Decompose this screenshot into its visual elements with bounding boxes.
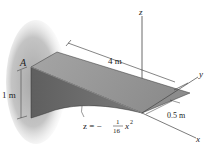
label-length: 4 m bbox=[108, 56, 122, 66]
curve-leader bbox=[81, 106, 84, 117]
label-width: 0.5 m bbox=[167, 111, 186, 120]
cantilever-diagram: A 1 m 4 m 0.5 m z y x z = − 1 16 x 2 bbox=[0, 0, 215, 151]
y-axis-ext bbox=[174, 83, 188, 90]
curve-equation-numerator: 1 bbox=[116, 118, 120, 126]
label-axis-z: z bbox=[138, 7, 143, 17]
dimension-tick bbox=[66, 40, 71, 46]
label-height: 1 m bbox=[2, 90, 16, 100]
curve-equation-exponent: 2 bbox=[130, 119, 133, 125]
curve-equation-prefix: z = − bbox=[83, 121, 102, 131]
label-axis-x: x bbox=[195, 134, 200, 144]
label-point-a: A bbox=[19, 57, 27, 68]
curve-equation-variable: x bbox=[124, 121, 129, 131]
label-axis-y: y bbox=[198, 69, 203, 79]
curve-equation-denominator: 16 bbox=[113, 127, 121, 135]
